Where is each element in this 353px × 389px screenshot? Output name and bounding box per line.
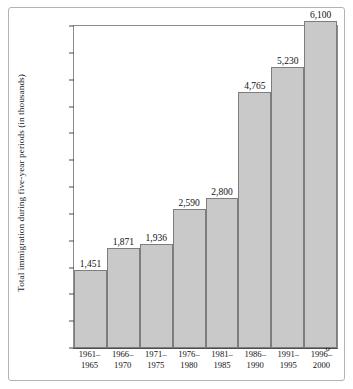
x-axis-tick-labels: 1961–19651966–19701971–19751976–19801981…	[73, 349, 338, 371]
x-axis-tick-label-line: 1976–	[172, 349, 205, 360]
bar-value-label: 6,100	[309, 11, 332, 21]
x-axis-tick-label-line: 1975	[139, 360, 172, 371]
x-axis-tick-label-line: 1971–	[139, 349, 172, 360]
x-axis-tick-label-line: 1986–	[239, 349, 272, 360]
bar[interactable]: 6,100	[304, 21, 337, 348]
x-axis-tick-label-line: 1991–	[272, 349, 305, 360]
bar[interactable]: 1,936	[140, 244, 173, 348]
bar-value-label: 4,765	[243, 82, 266, 92]
x-axis-tick-label-line: 2000	[305, 360, 338, 371]
bar-value-label: 2,800	[210, 188, 233, 198]
bar-slot: 2,590	[173, 26, 206, 348]
x-axis-tick-label-line: 1970	[106, 360, 139, 371]
plot-area: 05001,0001,5002,0002,5003,0003,5004,0004…	[73, 25, 338, 349]
x-axis-tick-label-line: 1980	[172, 360, 205, 371]
x-axis-tick-label-line: 1995	[272, 360, 305, 371]
immigration-bar-chart-figure: Total immigration during five-year perio…	[0, 0, 353, 389]
x-axis-tick-label: 1991–1995	[272, 349, 305, 371]
bar-value-label: 1,451	[79, 260, 102, 270]
x-axis-tick-label: 1986–1990	[239, 349, 272, 371]
bar[interactable]: 1,451	[74, 270, 107, 348]
x-axis-tick-label: 1961–1965	[73, 349, 106, 371]
bar-value-label: 1,936	[145, 234, 168, 244]
bar-series: 1,4511,8711,9362,5902,8004,7655,2306,100	[74, 26, 337, 348]
bar-value-label: 1,871	[112, 238, 135, 248]
x-axis-tick-label-line: 1965	[73, 360, 106, 371]
bar-slot: 2,800	[206, 26, 239, 348]
bar[interactable]: 1,871	[107, 248, 140, 348]
x-axis-tick-label: 1996–2000	[305, 349, 338, 371]
x-axis-tick-label-line: 1981–	[206, 349, 239, 360]
x-axis-tick-label: 1981–1985	[206, 349, 239, 371]
bar-slot: 4,765	[238, 26, 271, 348]
x-axis-tick-label-line: 1990	[239, 360, 272, 371]
bar-slot: 1,871	[107, 26, 140, 348]
bar[interactable]: 4,765	[238, 92, 271, 348]
bar[interactable]: 5,230	[271, 67, 304, 348]
y-axis-title: Total immigration during five-year perio…	[16, 18, 26, 348]
bar[interactable]: 2,800	[206, 198, 239, 348]
bar[interactable]: 2,590	[173, 209, 206, 348]
x-axis-tick-label-line: 1961–	[73, 349, 106, 360]
x-axis-tick-label: 1976–1980	[172, 349, 205, 371]
x-axis-tick-label-line: 1985	[206, 360, 239, 371]
bar-slot: 6,100	[304, 26, 337, 348]
bar-value-label: 5,230	[276, 57, 299, 67]
x-axis-tick-label: 1971–1975	[139, 349, 172, 371]
x-axis-tick-label: 1966–1970	[106, 349, 139, 371]
bar-slot: 5,230	[271, 26, 304, 348]
bar-slot: 1,936	[140, 26, 173, 348]
bar-slot: 1,451	[74, 26, 107, 348]
x-axis-tick-label-line: 1996–	[305, 349, 338, 360]
bar-value-label: 2,590	[177, 199, 200, 209]
x-axis-tick-label-line: 1966–	[106, 349, 139, 360]
